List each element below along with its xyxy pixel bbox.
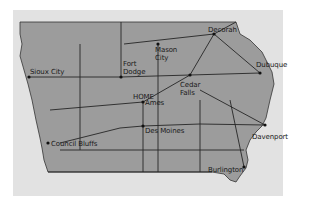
label-ames: Ames bbox=[145, 99, 164, 107]
label-des-moines: Des Moines bbox=[145, 127, 184, 135]
label-council-bluffs: Council Bluffs bbox=[51, 140, 97, 148]
label-mason-city: Mason City bbox=[155, 46, 177, 62]
label-sioux-city: Sioux City bbox=[30, 68, 64, 76]
label-dubuque: Dubuque bbox=[256, 61, 287, 69]
label-fort-dodge: Fort Dodge bbox=[123, 60, 145, 76]
label-cedar-falls: Cedar Falls bbox=[180, 81, 200, 97]
label-decorah: Decorah bbox=[208, 26, 237, 34]
label-burlington: Burlington bbox=[208, 166, 243, 174]
label-davenport: Davenport bbox=[252, 133, 288, 141]
